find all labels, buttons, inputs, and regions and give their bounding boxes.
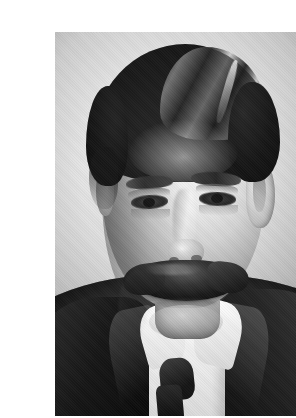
pupil-right	[211, 194, 223, 203]
chin	[149, 305, 222, 340]
jaw-shadow	[118, 270, 155, 347]
photo-image-area	[55, 32, 296, 416]
hair-side-right	[228, 82, 280, 182]
subject-figure	[55, 32, 296, 416]
page-canvas	[0, 0, 296, 418]
pupil-left	[143, 198, 155, 207]
temple-shadow-left	[89, 147, 118, 208]
portrait-photograph	[55, 32, 296, 416]
necktie-body	[156, 384, 185, 416]
